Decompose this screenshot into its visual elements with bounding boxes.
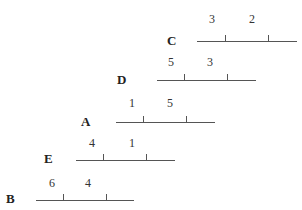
- row-number-2: 5: [167, 96, 173, 110]
- row-number-2: 3: [207, 55, 213, 69]
- row-number-1: 4: [89, 136, 95, 150]
- timeline-diagram: C 3 2 D 5 3 A 1 5 E 4 1 B 6 4: [0, 0, 302, 210]
- row-b: B 6 4: [6, 176, 134, 206]
- row-number-1: 5: [168, 55, 174, 69]
- row-number-2: 1: [129, 136, 135, 150]
- row-number-2: 4: [85, 176, 91, 190]
- row-number-1: 6: [49, 176, 55, 190]
- row-label: A: [81, 114, 91, 129]
- row-number-2: 2: [249, 12, 255, 26]
- row-label: D: [117, 72, 126, 87]
- row-number-1: 1: [129, 96, 135, 110]
- row-label: E: [44, 151, 53, 166]
- row-d: D 5 3: [117, 55, 256, 87]
- row-e: E 4 1: [44, 136, 175, 166]
- row-label: C: [167, 33, 176, 48]
- row-c: C 3 2: [167, 12, 297, 48]
- row-number-1: 3: [209, 12, 215, 26]
- row-a: A 1 5: [81, 96, 215, 129]
- row-label: B: [6, 191, 15, 206]
